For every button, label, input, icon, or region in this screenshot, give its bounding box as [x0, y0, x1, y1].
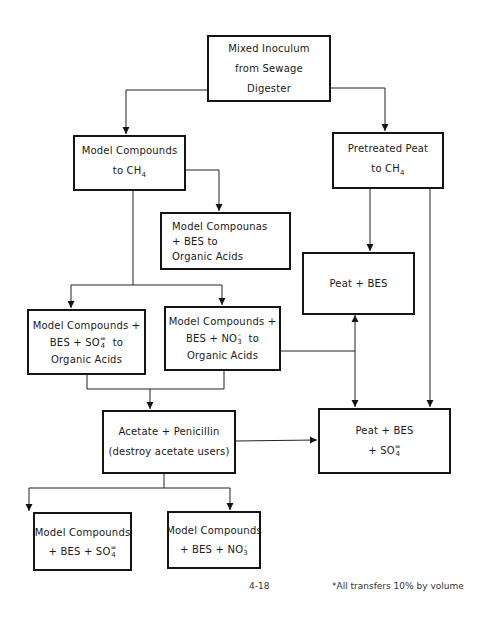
node-text: (destroy acetate users) — [108, 442, 229, 462]
node-acetate-penicillin: Acetate + Penicillin (destroy acetate us… — [102, 410, 236, 474]
node-text: Model Compounas — [172, 219, 268, 234]
node-model-compounds-bes-no3: Model Compounds + BES + NO-3 — [167, 511, 261, 569]
node-text: Organic Acids — [172, 249, 243, 264]
node-text-formula: BES + NO-3 to — [186, 330, 259, 347]
node-model-compounds-bes-so4: Model Compounds + BES + SO=4 — [33, 512, 132, 571]
node-text-formula: to CH4 — [371, 159, 404, 183]
node-model-compounds-bes-no3-organic-acids: Model Compounds + BES + NO-3 to Organic … — [164, 306, 281, 371]
node-model-compounds-to-ch4: Model Compounds to CH4 — [73, 135, 186, 191]
flowchart-canvas: Mixed Inoculum from Sewage Digester Mode… — [0, 0, 498, 619]
node-text: + BES to — [172, 234, 218, 249]
page-number: 4-18 — [249, 581, 269, 591]
footnote: *All transfers 10% by volume — [332, 581, 464, 591]
node-text: Model Compounds + — [33, 317, 141, 334]
node-text: Model Compounds — [166, 521, 262, 540]
node-text: Peat + BES — [355, 421, 413, 441]
node-text: Mixed Inoculum — [228, 39, 310, 59]
node-text: Peat + BES — [329, 274, 387, 294]
node-text: Model Compounds + — [169, 313, 277, 330]
node-text: Model Compounds — [35, 523, 131, 542]
node-text-formula: + SO=4 — [368, 441, 401, 461]
node-model-compounds-bes-so4-organic-acids: Model Compounds + BES + SO=4 to Organic … — [27, 309, 146, 375]
node-text-formula: to CH4 — [113, 161, 146, 185]
node-peat-bes: Peat + BES — [302, 252, 415, 315]
node-text-formula: + BES + SO=4 — [48, 542, 116, 561]
node-text: Organic Acids — [51, 351, 122, 368]
node-text-formula: BES + SO=4 to — [50, 334, 123, 351]
node-model-compounds-bes-organic-acids: Model Compounas + BES to Organic Acids — [160, 212, 291, 270]
node-text: Organic Acids — [187, 347, 258, 364]
node-text: Digester — [247, 79, 291, 99]
node-pretreated-peat-to-ch4: Pretreated Peat to CH4 — [332, 132, 444, 189]
node-text-formula: + BES + NO-3 — [180, 540, 248, 559]
node-mixed-inoculum: Mixed Inoculum from Sewage Digester — [207, 35, 331, 102]
node-text: Pretreated Peat — [348, 139, 428, 159]
node-text: Model Compounds — [82, 141, 178, 161]
node-peat-bes-so4: Peat + BES + SO=4 — [318, 408, 451, 474]
node-text: from Sewage — [235, 59, 303, 79]
node-text: Acetate + Penicillin — [118, 422, 219, 442]
